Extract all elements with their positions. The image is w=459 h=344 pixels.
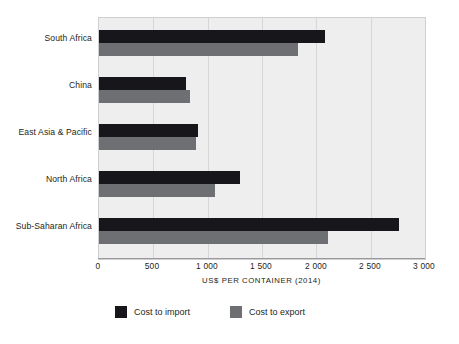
x-axis-title: US$ PER CONTAINER (2014) (98, 276, 425, 285)
legend-label-cost-to-import: Cost to import (134, 306, 190, 318)
legend-swatch-export-icon (230, 306, 242, 318)
x-tick-label-2500: 2 500 (359, 261, 381, 271)
bar-import-sub-saharan-africa (99, 218, 399, 231)
bar-import-china (99, 77, 186, 90)
x-tick-label-500: 500 (145, 261, 160, 271)
bar-chart-figure: South Africa China East Asia & Pacific N… (0, 0, 459, 344)
bar-import-north-africa (99, 171, 240, 184)
category-axis-labels: South Africa China East Asia & Pacific N… (0, 18, 92, 258)
bar-export-sub-saharan-africa (99, 231, 328, 244)
x-tick-label-3000: 3 000 (413, 261, 435, 271)
x-tick-label-0: 0 (96, 261, 101, 271)
category-label-south-africa: South Africa (0, 33, 92, 43)
x-axis-line (98, 258, 425, 259)
category-label-china: China (0, 80, 92, 90)
bar-import-east-asia-pacific (99, 124, 198, 137)
plot-area (98, 17, 426, 260)
bar-export-china (99, 90, 190, 103)
legend-item-cost-to-import: Cost to import (115, 305, 190, 319)
legend-swatch-import-icon (115, 306, 127, 318)
bar-import-south-africa (99, 30, 325, 43)
x-tick-label-1500: 1 500 (250, 261, 272, 271)
bar-export-north-africa (99, 184, 215, 197)
category-label-sub-saharan-africa: Sub-Saharan Africa (0, 221, 92, 231)
category-label-east-asia-pacific: East Asia & Pacific (0, 127, 92, 137)
bar-export-south-africa (99, 43, 298, 56)
bar-export-east-asia-pacific (99, 137, 196, 150)
x-tick-label-1000: 1 000 (196, 261, 218, 271)
x-tick-label-2000: 2 000 (305, 261, 327, 271)
chart-legend: Cost to import Cost to export (98, 305, 425, 321)
legend-item-cost-to-export: Cost to export (230, 305, 305, 319)
legend-label-cost-to-export: Cost to export (249, 306, 305, 318)
category-label-north-africa: North Africa (0, 174, 92, 184)
